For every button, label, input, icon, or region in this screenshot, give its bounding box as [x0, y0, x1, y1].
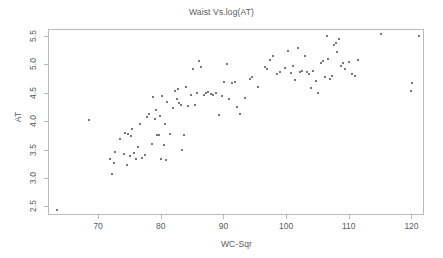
data-point — [231, 82, 233, 84]
data-point — [203, 94, 205, 96]
data-point — [56, 209, 58, 211]
data-point — [315, 80, 317, 82]
data-point — [155, 109, 157, 111]
data-point — [312, 70, 314, 72]
data-point — [301, 70, 303, 72]
x-tick-mark — [349, 215, 350, 219]
data-point — [234, 81, 236, 83]
data-point — [335, 42, 337, 44]
data-point — [344, 68, 346, 70]
data-point — [348, 61, 350, 63]
data-point — [236, 106, 238, 108]
data-point — [276, 73, 278, 75]
data-point — [228, 98, 230, 100]
data-point — [317, 92, 319, 94]
data-points-layer — [49, 30, 423, 214]
data-point — [88, 119, 90, 121]
data-point — [292, 65, 294, 67]
x-tick-mark — [223, 215, 224, 219]
y-tick-label: 4.0 — [27, 110, 39, 132]
data-point — [290, 72, 292, 74]
data-point — [308, 73, 310, 75]
data-point — [272, 55, 274, 57]
y-tick-label: 3.0 — [27, 167, 39, 189]
data-point — [244, 97, 246, 99]
x-tick-label: 120 — [396, 221, 426, 231]
data-point — [151, 143, 153, 145]
data-point — [141, 157, 143, 159]
data-point — [172, 107, 174, 109]
data-point — [287, 50, 289, 52]
data-point — [114, 151, 116, 153]
data-point — [329, 78, 331, 80]
data-point — [146, 116, 148, 118]
plot-area-frame — [48, 29, 424, 215]
data-point — [304, 55, 306, 57]
y-tick-mark — [44, 206, 48, 207]
y-axis-label: AT — [13, 87, 23, 147]
data-point — [354, 75, 356, 77]
y-tick-label: 4.5 — [27, 82, 39, 104]
y-tick-mark — [44, 150, 48, 151]
data-point — [333, 44, 335, 46]
data-point — [331, 75, 333, 77]
data-point — [410, 90, 412, 92]
y-tick-label: 2.5 — [27, 195, 39, 217]
x-tick-label: 110 — [334, 221, 364, 231]
data-point — [257, 86, 259, 88]
data-point — [324, 76, 326, 78]
data-point — [342, 62, 344, 64]
data-point — [212, 94, 214, 96]
data-point — [266, 68, 268, 70]
data-point — [207, 91, 209, 93]
data-point — [357, 59, 359, 61]
data-point — [133, 152, 135, 154]
data-point — [297, 47, 299, 49]
data-point — [109, 158, 111, 160]
data-point — [351, 73, 353, 75]
x-axis-label: WC-Sqr — [48, 239, 425, 249]
data-point — [183, 134, 185, 136]
y-tick-label: 3.5 — [27, 139, 39, 161]
x-tick-mark — [286, 215, 287, 219]
chart-title: Waist Vs.log(AT) — [0, 7, 443, 17]
x-tick-mark — [161, 215, 162, 219]
x-tick-label: 90 — [208, 221, 238, 231]
data-point — [165, 159, 167, 161]
data-point — [126, 164, 128, 166]
data-point — [326, 35, 328, 37]
y-tick-mark — [44, 64, 48, 65]
x-tick-label: 80 — [146, 221, 176, 231]
data-point — [181, 149, 183, 151]
y-tick-mark — [44, 178, 48, 179]
data-point — [239, 113, 241, 115]
data-point — [144, 154, 146, 156]
x-tick-label: 100 — [271, 221, 301, 231]
data-point — [310, 87, 312, 89]
data-point — [194, 104, 196, 106]
x-tick-mark — [98, 215, 99, 219]
data-point — [174, 90, 176, 92]
scatter-plot-figure: Waist Vs.log(AT) AT WC-Sqr 7080901001101… — [0, 0, 443, 258]
data-point — [113, 162, 115, 164]
data-point — [338, 38, 340, 40]
y-tick-mark — [44, 93, 48, 94]
data-point — [269, 59, 271, 61]
data-point — [160, 158, 162, 160]
data-point — [322, 60, 324, 62]
data-point — [185, 86, 187, 88]
data-point — [135, 158, 137, 160]
data-point — [124, 132, 126, 134]
data-point — [154, 118, 156, 120]
data-point — [131, 128, 133, 130]
x-tick-label: 70 — [83, 221, 113, 231]
data-point — [411, 82, 413, 84]
data-point — [177, 88, 179, 90]
data-point — [130, 135, 132, 137]
data-point — [127, 133, 129, 135]
data-point — [284, 67, 286, 69]
data-point — [180, 104, 182, 106]
data-point — [340, 65, 342, 67]
data-point — [380, 33, 382, 35]
y-tick-mark — [44, 121, 48, 122]
